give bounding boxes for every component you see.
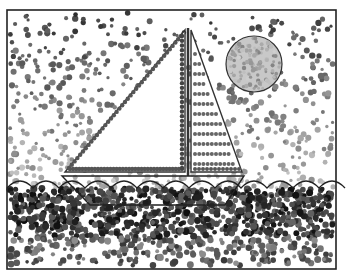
sailboat-artwork — [0, 0, 350, 275]
sun — [226, 36, 282, 92]
